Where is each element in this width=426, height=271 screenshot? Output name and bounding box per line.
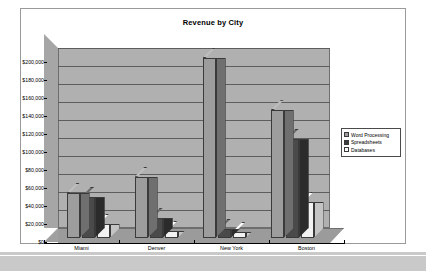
bar-side-face bbox=[299, 139, 309, 238]
x-axis-tick-label: Miami bbox=[74, 245, 88, 251]
y-axis-tickmark bbox=[44, 206, 47, 207]
y-axis-tickmark bbox=[44, 170, 47, 171]
x-axis-tickmark bbox=[44, 240, 45, 244]
legend-label: Spreadsheets bbox=[351, 139, 382, 145]
legend-swatch-icon bbox=[344, 147, 349, 152]
bar-front-face bbox=[67, 193, 80, 238]
legend-item-word-processing[interactable]: Word Processing bbox=[344, 131, 398, 138]
y-axis-tickmark bbox=[44, 116, 47, 117]
bar[interactable] bbox=[271, 110, 284, 238]
y-axis-tickmark bbox=[44, 188, 47, 189]
legend-item-databases[interactable]: Databases bbox=[344, 146, 398, 153]
bar-front-face bbox=[203, 58, 216, 238]
bar[interactable] bbox=[135, 177, 148, 238]
y-axis-tickmark bbox=[44, 152, 47, 153]
bar[interactable] bbox=[203, 58, 216, 238]
legend-swatch-icon bbox=[344, 140, 349, 145]
bar-front-face bbox=[135, 177, 148, 238]
x-axis-tick-label: Boston bbox=[298, 245, 315, 251]
x-axis-tickmark bbox=[269, 240, 270, 244]
legend-label: Word Processing bbox=[351, 132, 389, 138]
window-bottom-strip bbox=[0, 252, 426, 271]
bar-side-face bbox=[148, 177, 158, 238]
y-axis-tickmark bbox=[44, 134, 47, 135]
x-axis-tickmark bbox=[344, 240, 345, 244]
legend-item-spreadsheets[interactable]: Spreadsheets bbox=[344, 139, 398, 146]
bar-front-face bbox=[271, 110, 284, 238]
bar-side-face bbox=[284, 110, 294, 238]
x-axis-tick-label: Denver bbox=[148, 245, 165, 251]
y-axis-tickmark bbox=[44, 62, 47, 63]
legend-label: Databases bbox=[351, 147, 375, 153]
x-axis-tickmark bbox=[194, 240, 195, 244]
chart-legend[interactable]: Word Processing Spreadsheets Databases bbox=[341, 128, 401, 157]
x-axis-tickmark bbox=[119, 240, 120, 244]
y-axis-tickmark bbox=[44, 80, 47, 81]
divider bbox=[0, 255, 426, 256]
bar[interactable] bbox=[67, 193, 80, 238]
y-axis-tickmark bbox=[44, 224, 47, 225]
x-axis-tick-label: New York bbox=[220, 245, 243, 251]
bar-side-face bbox=[216, 58, 226, 238]
legend-swatch-icon bbox=[344, 132, 349, 137]
screenshot-root: Revenue by City $0$20,000$40,000$60,000$… bbox=[0, 0, 426, 271]
y-axis-tickmark bbox=[44, 98, 47, 99]
